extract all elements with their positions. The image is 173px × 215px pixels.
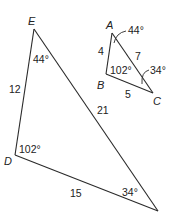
large-triangle: E D 12 21 15 44° 102° 34° <box>4 15 158 211</box>
vertex-label-C: C <box>153 95 161 107</box>
angle-label-D: 102° <box>19 143 41 155</box>
vertex-label-E: E <box>28 15 36 27</box>
vertex-label-A: A <box>105 19 113 31</box>
side-label-ED: 12 <box>9 83 21 95</box>
vertex-label-D: D <box>4 155 12 167</box>
side-label-AC: 7 <box>135 50 141 62</box>
angle-label-F: 34° <box>122 186 138 198</box>
small-triangle: A B C 4 7 5 44° 102° 34° <box>97 19 166 107</box>
side-DF <box>15 155 158 211</box>
angle-A-leader <box>114 31 126 43</box>
side-label-AB: 4 <box>98 45 104 57</box>
angle-label-C: 34° <box>150 64 166 76</box>
similar-triangles-diagram: E D 12 21 15 44° 102° 34° A B C 4 7 5 44… <box>0 0 173 215</box>
angle-label-B: 102° <box>110 64 132 76</box>
angle-label-E: 44° <box>33 53 49 65</box>
vertex-label-B: B <box>97 79 104 91</box>
side-label-BC: 5 <box>125 88 131 100</box>
side-label-DF: 15 <box>70 187 82 199</box>
angle-label-A: 44° <box>128 24 144 36</box>
side-AC <box>112 33 153 93</box>
side-label-EF: 21 <box>97 104 109 116</box>
